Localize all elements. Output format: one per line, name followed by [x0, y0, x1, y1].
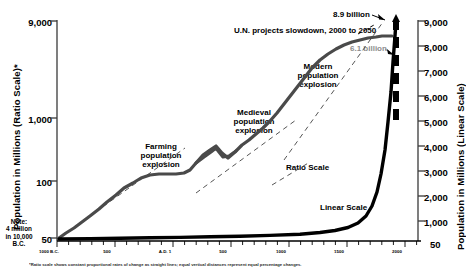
chart-plot-area	[0, 0, 466, 270]
projection-tip-marker	[392, 14, 400, 22]
guide-line-medieval	[196, 120, 296, 193]
guide-line-modern	[284, 22, 383, 160]
leader-line-un	[358, 25, 374, 34]
left-axis-ticks	[50, 21, 57, 238]
chart-figure: Population in Millions (Ratio Scale)* Po…	[0, 0, 466, 270]
series-ratio-scale-curve	[59, 36, 392, 238]
series-linear-scale-curve	[59, 22, 396, 239]
right-axis-ticks	[418, 21, 425, 221]
guide-line-medieval-2	[272, 162, 310, 185]
x-axis-ticks	[57, 241, 417, 247]
